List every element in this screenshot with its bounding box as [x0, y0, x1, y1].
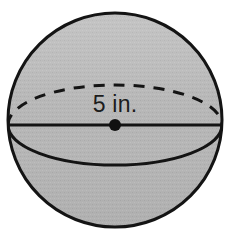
- sphere-figure: 5 in.: [0, 0, 230, 238]
- center-dot: [109, 119, 121, 131]
- sphere-diagram-canvas: 5 in.: [0, 0, 230, 238]
- diameter-measure-label: 5 in.: [93, 91, 137, 117]
